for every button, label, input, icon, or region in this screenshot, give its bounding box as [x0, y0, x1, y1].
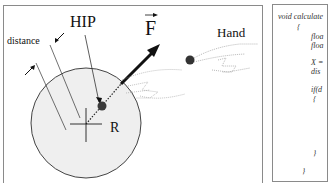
code-line: void calculate [278, 13, 323, 21]
proxy-point [186, 56, 195, 65]
radius-label: R [110, 121, 119, 135]
code-line: X = [311, 59, 323, 67]
hand-label: Hand [217, 26, 245, 39]
code-line: floa [311, 33, 323, 41]
hip-point [98, 102, 107, 111]
code-line: dis [311, 68, 320, 76]
code-line: if(d [311, 86, 322, 94]
hip-label: HIP [70, 14, 96, 30]
hand-icon [194, 44, 258, 72]
code-line: { [297, 24, 300, 32]
code-line: { [313, 96, 316, 104]
code-line: floa [311, 42, 323, 50]
code-line: } [302, 168, 305, 176]
distance-label: distance [7, 36, 40, 46]
code-line: } [313, 150, 316, 158]
force-vector [121, 51, 154, 84]
force-label: F [145, 18, 156, 38]
